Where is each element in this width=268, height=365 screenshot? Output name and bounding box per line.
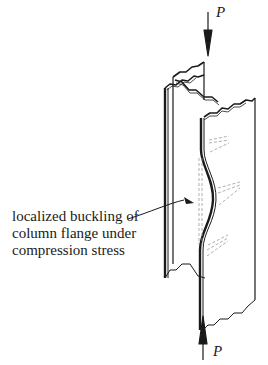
annotation-line-2: column flange under <box>12 225 139 242</box>
web <box>173 62 219 264</box>
top-load-label: P <box>216 4 225 21</box>
leader-arrow-icon <box>184 197 194 204</box>
column-buckling-diagram: P P localized buckling of column flange … <box>0 0 268 365</box>
bottom-edges <box>165 264 255 330</box>
annotation-line-1: localized buckling of <box>12 208 139 225</box>
front-flange-top <box>204 98 255 300</box>
annotation-line-3: compression stress <box>12 242 139 259</box>
buckling-annotation: localized buckling of column flange unde… <box>12 208 139 259</box>
column-drawing <box>0 0 268 365</box>
back-flange <box>165 75 204 278</box>
top-load-arrow-icon <box>204 12 212 56</box>
buckled-flange-edge <box>200 118 216 330</box>
bottom-load-label: P <box>213 343 222 360</box>
